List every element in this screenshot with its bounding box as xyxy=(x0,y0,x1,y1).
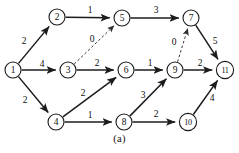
edge-8-to-9 xyxy=(130,79,166,116)
graph-node-3[interactable]: 3 xyxy=(60,62,76,78)
graph-canvas: 1234567891011 2421022131532024 xyxy=(0,0,239,153)
node-label-11: 11 xyxy=(221,66,228,75)
graph-node-5[interactable]: 5 xyxy=(114,10,130,26)
edge-weight-10-11: 4 xyxy=(210,93,215,103)
figure-caption: (a) xyxy=(0,133,239,144)
node-label-10: 10 xyxy=(184,118,192,127)
graph-node-6[interactable]: 6 xyxy=(118,62,134,78)
node-label-1: 1 xyxy=(11,65,16,75)
graph-node-7[interactable]: 7 xyxy=(183,10,199,26)
edge-weight-4-6: 2 xyxy=(81,88,86,98)
node-label-2: 2 xyxy=(55,12,60,22)
node-label-3: 3 xyxy=(66,65,71,75)
node-label-8: 8 xyxy=(122,117,127,127)
node-label-6: 6 xyxy=(124,65,129,75)
edge-2-to-5 xyxy=(66,17,110,18)
edge-9-to-7 xyxy=(178,29,188,62)
edge-weight-3-6: 2 xyxy=(95,58,100,68)
graph-node-2[interactable]: 2 xyxy=(49,9,65,25)
node-label-4: 4 xyxy=(54,117,59,127)
node-label-5: 5 xyxy=(120,13,125,23)
node-label-9: 9 xyxy=(173,65,178,75)
graph-node-8[interactable]: 8 xyxy=(116,114,132,130)
graph-figure: 1234567891011 2421022131532024 (a) xyxy=(0,0,239,153)
edge-weight-4-8: 1 xyxy=(88,110,93,120)
graph-node-11[interactable]: 11 xyxy=(216,61,233,78)
edge-weight-1-2: 2 xyxy=(22,36,27,46)
edge-weight-9-11: 2 xyxy=(198,58,203,68)
edge-weight-1-4: 2 xyxy=(23,95,28,105)
edge-weight-1-3: 4 xyxy=(40,59,45,69)
graph-node-10[interactable]: 10 xyxy=(179,113,196,130)
edge-weight-9-7: 0 xyxy=(172,37,177,47)
node-label-7: 7 xyxy=(189,13,194,23)
graph-node-1[interactable]: 1 xyxy=(5,62,21,78)
edge-weight-6-9: 1 xyxy=(148,58,153,68)
edge-weight-2-5: 1 xyxy=(88,5,93,15)
edge-weight-5-7: 3 xyxy=(154,5,159,15)
graph-node-4[interactable]: 4 xyxy=(48,114,64,130)
graph-node-9[interactable]: 9 xyxy=(167,62,183,78)
edge-weight-8-10: 2 xyxy=(154,109,159,119)
edge-weight-8-9: 3 xyxy=(141,90,146,100)
edge-weight-3-5: 0 xyxy=(90,34,95,44)
edge-weight-7-11: 5 xyxy=(213,36,218,46)
